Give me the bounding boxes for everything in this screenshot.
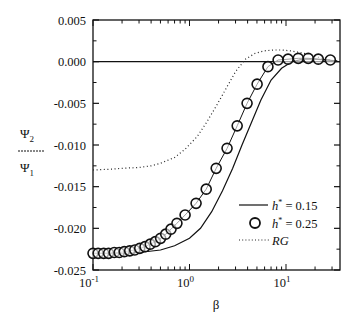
h025-circle-marker [180, 210, 190, 220]
chart: 0.0050.000-0.005-0.010-0.015-0.020-0.025… [0, 0, 356, 327]
legend: h* = 0.15h* = 0.25RG [239, 198, 317, 248]
legend-circle-swatch [250, 218, 260, 228]
legend-variable: RG [271, 234, 289, 248]
y-axis-label-numerator: Ψ2 [20, 126, 34, 144]
h025-circle-marker [191, 198, 201, 208]
legend-value: = 0.25 [282, 217, 317, 231]
h025-circle-marker [283, 54, 293, 64]
h025-circle-marker [273, 55, 283, 65]
h025-circle-marker [232, 121, 242, 131]
legend-label: RG [271, 234, 289, 248]
x-tick-label: 101 [274, 274, 291, 290]
h025-circle-marker [172, 218, 182, 228]
psi-symbol: Ψ [20, 160, 30, 175]
h025-circle-marker [325, 55, 335, 65]
h025-circle-marker [293, 53, 303, 63]
h025-circle-marker [303, 53, 313, 63]
h025-circle-marker [252, 79, 262, 89]
legend-label: h* = 0.15 [272, 198, 317, 213]
h025-circle-marker [242, 98, 252, 108]
x-tick-base: 10 [177, 276, 190, 290]
psi-subscript: 1 [30, 168, 35, 178]
psi-symbol: Ψ [20, 126, 30, 141]
y-tick-label: -0.020 [54, 222, 86, 236]
y-tick-label: 0.005 [58, 14, 86, 28]
y-tick-label: -0.010 [54, 139, 86, 153]
x-tick-base: 10 [79, 276, 92, 290]
y-axis-label-denominator: Ψ1 [20, 160, 34, 178]
h025-circle-marker [313, 54, 323, 64]
h025-circle-marker [201, 184, 211, 194]
x-tick-base: 10 [274, 276, 287, 290]
x-tick-label: 10-1 [79, 274, 99, 290]
x-tick-label: 100 [177, 274, 195, 290]
y-tick-label: 0.000 [58, 55, 86, 69]
psi-subscript: 2 [30, 134, 35, 144]
h025-circle-marker [211, 163, 221, 173]
rg-dotted-curve [93, 50, 337, 170]
x-tick-exponent: 1 [286, 274, 291, 284]
y-tick-label: -0.015 [54, 180, 86, 194]
legend-value: = 0.15 [282, 199, 317, 213]
h025-circle-marker [222, 143, 232, 153]
x-tick-exponent: 0 [190, 274, 195, 284]
h025-circle-marker [263, 62, 273, 72]
x-axis-label: β [213, 297, 220, 312]
y-tick-label: -0.005 [54, 97, 86, 111]
legend-label: h* = 0.25 [272, 216, 317, 231]
x-tick-exponent: -1 [92, 274, 100, 284]
